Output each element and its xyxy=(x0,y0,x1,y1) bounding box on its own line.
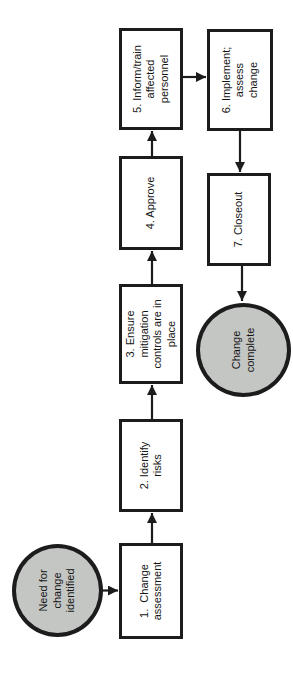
process-step-5-inform-train-personnel: 5. Inform/train affected personnel xyxy=(119,28,183,130)
process-step-6-label: 6. Implement; assess change xyxy=(220,47,261,114)
change-management-flowchart: Need for change identified 1. Change ass… xyxy=(0,0,293,681)
process-step-1-change-assessment: 1. Change assessment xyxy=(119,543,183,639)
start-terminator-label: Need for change identified xyxy=(37,568,78,612)
process-step-2-identify-risks: 2. Identify risks xyxy=(119,419,183,512)
start-terminator-need-for-change: Need for change identified xyxy=(12,544,103,637)
end-terminator-change-complete: Change complete xyxy=(196,303,291,397)
process-step-4-label: 4. Approve xyxy=(144,177,158,230)
process-step-3-label: 3. Ensure mitigation controls are in pla… xyxy=(124,299,178,368)
end-terminator-label: Change complete xyxy=(230,328,257,373)
process-step-7-closeout: 7. Closeout xyxy=(207,173,271,266)
process-step-6-implement-assess-change: 6. Implement; assess change xyxy=(207,29,273,131)
process-step-4-approve: 4. Approve xyxy=(119,156,183,250)
process-step-2-label: 2. Identify risks xyxy=(138,442,165,490)
process-step-5-label: 5. Inform/train affected personnel xyxy=(131,45,172,113)
flowchart-canvas: Need for change identified 1. Change ass… xyxy=(0,0,293,681)
process-step-7-label: 7. Closeout xyxy=(232,192,246,248)
process-step-1-label: 1. Change assessment xyxy=(138,562,165,621)
process-step-3-ensure-mitigation-controls: 3. Ensure mitigation controls are in pla… xyxy=(119,284,183,384)
